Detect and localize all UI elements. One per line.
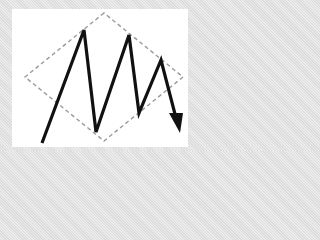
zigzag-line: [42, 30, 176, 143]
zigzag-diamond-diagram: [0, 0, 196, 151]
arrowhead-icon: [169, 113, 183, 133]
